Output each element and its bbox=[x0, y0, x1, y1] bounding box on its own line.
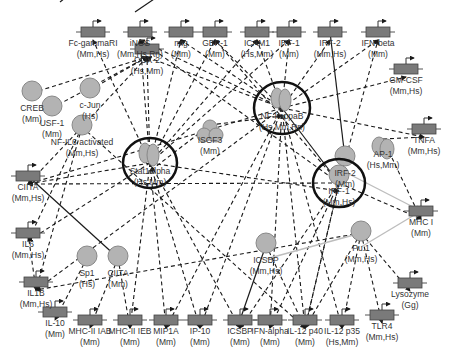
node-name: mig bbox=[171, 38, 191, 49]
node-species: (Mm) bbox=[198, 146, 223, 157]
gene-node-gmcsf[interactable] bbox=[389, 58, 423, 74]
gene-node-gbp1[interactable] bbox=[198, 21, 232, 37]
tlr4-label: TLR4(Mm,Hs) bbox=[366, 321, 399, 343]
mig-label: mig(Mm) bbox=[171, 38, 191, 60]
gene-node-icam1[interactable] bbox=[240, 21, 274, 37]
ciita1-label: CIITA(Mm,Hs) bbox=[12, 182, 45, 204]
node-name: IRF-1 bbox=[323, 186, 356, 197]
gene-node-mig[interactable] bbox=[164, 21, 198, 37]
node-species: (Mm) bbox=[69, 337, 112, 348]
regulation-edge bbox=[282, 108, 342, 328]
promoter-arrow-icon bbox=[93, 21, 101, 27]
regulation-edge bbox=[82, 127, 305, 328]
gene-node-mhc2iab[interactable] bbox=[73, 309, 107, 325]
node-name: Stat1alpha bbox=[130, 166, 171, 177]
regulation-edge bbox=[282, 108, 305, 328]
gene-node-tnfa[interactable] bbox=[407, 118, 441, 134]
node-name: NF-IL6 activated bbox=[51, 137, 113, 148]
protein-node-ciita2[interactable] bbox=[108, 246, 128, 266]
node-name: ICSBP bbox=[250, 255, 283, 266]
mhc1-label: MHC I(Mm) bbox=[409, 217, 433, 239]
node-species: (Mm) bbox=[251, 337, 288, 348]
promoter-arrow-icon bbox=[130, 309, 138, 315]
icam1-label: ICAM1(Hs,Mm) bbox=[241, 38, 274, 60]
nfil6-label: NF-IL6 activated(Mm,Hs) bbox=[51, 137, 113, 159]
gene-node-il1b[interactable] bbox=[19, 271, 53, 287]
promoter-arrow-icon bbox=[406, 58, 414, 64]
inos-label: iNOS(Mm,Hs,Rn) bbox=[117, 38, 163, 60]
gene-node-mhc2ieb[interactable] bbox=[113, 309, 147, 325]
node-name: Pu.1 bbox=[345, 243, 378, 254]
gene-node-ifnb[interactable] bbox=[361, 21, 395, 37]
node-name: GM-CSF bbox=[389, 75, 423, 86]
node-name: GBP-1 bbox=[202, 38, 228, 49]
regulation-edge bbox=[150, 163, 339, 191]
ciita2-label: CIITA(Mm) bbox=[107, 268, 128, 290]
node-name: IL-12 p40 bbox=[287, 326, 323, 337]
stat1-label: Stat1alpha(Hs,Mm) bbox=[130, 166, 171, 188]
node-name: IP-10 bbox=[190, 326, 210, 337]
node-species: (Hs) bbox=[80, 111, 101, 122]
node-species: (Mm,Hs) bbox=[408, 146, 441, 157]
protein-node-cjun[interactable] bbox=[80, 78, 100, 98]
node-species: (Mm) bbox=[361, 49, 394, 60]
cjun-label: c-Jun(Hs) bbox=[80, 100, 101, 122]
node-name: CIITA bbox=[107, 268, 128, 279]
gene-node-mhc1[interactable] bbox=[404, 200, 438, 216]
node-name: ISGF3 bbox=[198, 135, 223, 146]
protein-node-creb[interactable] bbox=[22, 81, 42, 101]
gene-node-inos[interactable] bbox=[123, 21, 157, 37]
irf1-label: IRF-1(Mm,Hs) bbox=[323, 186, 356, 208]
node-name: ICAM1 bbox=[241, 38, 274, 49]
protein-node-icsbp[interactable] bbox=[256, 233, 276, 253]
gene-node-fcgri[interactable] bbox=[76, 21, 110, 37]
node-name: MHC-II IEB bbox=[109, 326, 152, 337]
protein-node-usf1[interactable] bbox=[42, 96, 62, 116]
node-species: (Hs,Mm) bbox=[241, 49, 274, 60]
promoter-arrow-icon bbox=[421, 200, 429, 206]
node-name: IL6 bbox=[12, 239, 45, 250]
node-name: IFN-alpha bbox=[251, 326, 288, 337]
promoter-arrow-icon bbox=[378, 21, 386, 27]
protein-node-sp1[interactable] bbox=[77, 246, 97, 266]
mhc2ieb-label: MHC-II IEB(Mm) bbox=[109, 326, 152, 348]
node-species: (Mm,Hs) bbox=[389, 86, 423, 97]
il12p40-label: IL-12 p40(Mm) bbox=[287, 326, 323, 348]
gene-node-ifna[interactable] bbox=[253, 309, 287, 325]
node-species: (Mm) bbox=[202, 49, 228, 60]
icsbp-label: ICSBP(Mm,Hs) bbox=[250, 255, 283, 277]
gene-node-irf2t[interactable] bbox=[313, 21, 347, 37]
protein-node-pu1[interactable] bbox=[351, 221, 371, 241]
gene-node-il12p40[interactable] bbox=[288, 309, 322, 325]
gene-node-mip1a[interactable] bbox=[149, 309, 183, 325]
node-species: (Mm) bbox=[190, 337, 210, 348]
node-species: (Hs,Mm) bbox=[130, 177, 171, 188]
il12p35-label: IL-12 p35(Hs,Mm) bbox=[324, 326, 360, 348]
promoter-arrow-icon bbox=[200, 309, 208, 315]
gene-node-ip10[interactable] bbox=[183, 309, 217, 325]
node-name: IFN-beta bbox=[361, 38, 394, 49]
node-species: (Mm) bbox=[409, 228, 433, 239]
gene-node-il6[interactable] bbox=[11, 222, 45, 238]
node-species: (Mm,Hs) bbox=[20, 299, 53, 310]
gene-node-ciita1[interactable] bbox=[11, 165, 45, 181]
gene-node-irf1t[interactable] bbox=[272, 21, 306, 37]
node-name: CREB bbox=[20, 103, 44, 114]
gene-node-lysozyme[interactable] bbox=[393, 272, 427, 288]
node-name: NF-kappaB bbox=[259, 111, 305, 122]
regulation-edge bbox=[36, 108, 282, 290]
mhc2iab-label: MHC-II IAB(Mm) bbox=[69, 326, 112, 348]
node-species: (Hs,Mm,Rn) bbox=[259, 122, 305, 133]
node-name: AP-1 bbox=[367, 149, 400, 160]
inactive-edge bbox=[345, 172, 421, 211]
node-species: (Mm,Hs) bbox=[250, 266, 283, 277]
il1b-label: IL1B(Mm,Hs) bbox=[20, 288, 53, 310]
node-name: Lysozyme bbox=[391, 289, 429, 300]
node-species: (Hs,Mm) bbox=[131, 66, 164, 77]
gene-node-il12p35[interactable] bbox=[325, 309, 359, 325]
promoter-arrow-icon bbox=[28, 165, 36, 171]
promoter-arrow-icon bbox=[289, 21, 297, 27]
regulation-edge bbox=[282, 77, 406, 108]
node-name: IL-12 p35 bbox=[324, 326, 360, 337]
promoter-arrow-icon bbox=[382, 304, 390, 310]
